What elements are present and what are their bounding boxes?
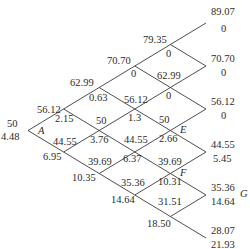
- tree-branch: [170, 88, 206, 110]
- node-5-4-option: 0: [221, 67, 226, 78]
- node-4-3-option: 0: [166, 90, 171, 101]
- node-3-3-option: 0: [131, 68, 136, 79]
- node-5-2-stock: 44.55: [211, 139, 235, 150]
- node-5-4-stock: 70.70: [211, 53, 235, 64]
- node-3-0-option: 14.64: [111, 194, 135, 205]
- node-5-0-option: 21.93: [211, 239, 235, 249]
- node-3-0-stock: 35.36: [121, 177, 145, 188]
- tree-branch: [170, 23, 206, 45]
- node-5-3-option: 0: [221, 110, 226, 121]
- tree-branch: [170, 109, 206, 131]
- node-1-0-stock: 44.55: [53, 136, 77, 147]
- node-3-1-stock: 44.55: [124, 134, 148, 145]
- node-label-g: G: [240, 188, 248, 199]
- node-5-0-stock: 28.07: [211, 225, 235, 236]
- node-3-3-stock: 70.70: [107, 55, 131, 66]
- node-4-0-option: 18.50: [147, 218, 171, 229]
- node-4-0-stock: 31.51: [158, 196, 182, 207]
- node-4-3-stock: 62.99: [157, 70, 181, 81]
- node-5-1-stock: 35.36: [211, 182, 235, 193]
- node-2-0-stock: 39.69: [88, 156, 112, 167]
- root-option-value: 4.48: [1, 131, 19, 142]
- node-4-1-option: 10.31: [158, 176, 182, 187]
- node-2-2-option: 0.63: [89, 92, 107, 103]
- root-stock-price: 50: [7, 118, 18, 129]
- node-4-2-stock: 50: [159, 114, 170, 125]
- tree-branch: [170, 45, 206, 67]
- node-4-1-stock: 39.69: [158, 156, 182, 167]
- tree-branch: [99, 66, 135, 88]
- node-2-0-option: 10.35: [72, 172, 96, 183]
- node-2-2-stock: 62.99: [70, 77, 94, 88]
- node-4-4-option: 0: [166, 48, 171, 59]
- node-5-2-option: 5.45: [213, 153, 231, 164]
- node-3-2-option: 1.3: [128, 112, 141, 123]
- node-5-1-option: 14.64: [211, 196, 235, 207]
- node-1-1-option: 2.15: [55, 113, 73, 124]
- node-1-0-option: 6.95: [43, 151, 61, 162]
- node-5-3-stock: 56.12: [211, 96, 235, 107]
- node-2-1-stock: 50: [96, 115, 107, 126]
- node-5-5-stock: 89.07: [211, 6, 235, 17]
- binomial-tree-diagram: 50 4.48 A 56.12 2.15 44.55 6.95 62.99 0.…: [0, 0, 250, 249]
- node-2-1-option: 3.76: [90, 134, 108, 145]
- node-label-e: E: [179, 124, 187, 135]
- node-3-1-option: 6.37: [123, 153, 141, 164]
- node-3-2-stock: 56.12: [124, 94, 148, 105]
- node-label-a: A: [37, 125, 45, 136]
- node-4-4-stock: 79.35: [143, 34, 167, 45]
- node-4-2-option: 2.66: [159, 133, 177, 144]
- tree-branch: [170, 217, 206, 239]
- node-5-5-option: 0: [221, 23, 226, 34]
